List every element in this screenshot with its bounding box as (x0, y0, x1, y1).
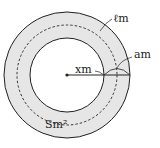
area-label: Sm² (45, 118, 67, 131)
length-label: ℓm (113, 12, 129, 25)
annulus-diagram: ℓm am xm Sm² (0, 0, 160, 148)
radius-label: xm (75, 63, 92, 76)
width-label: am (134, 48, 152, 61)
